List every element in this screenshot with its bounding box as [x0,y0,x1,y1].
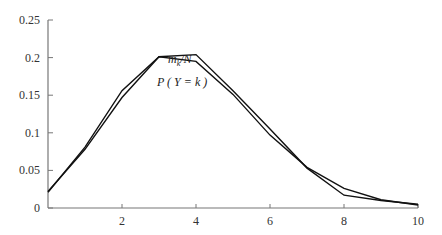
y-tick-label: 0 [34,201,40,215]
series-p-y-equals-k [48,57,418,205]
series-mk-over-n [48,55,418,205]
y-tick-label: 0.25 [19,13,40,27]
x-tick-label: 2 [119,214,125,228]
x-tick-label: 6 [267,214,273,228]
chart: 00.050.10.150.20.25246810 mk/N P ( Y = k… [0,0,442,235]
y-tick-label: 0.15 [19,88,40,102]
annotation-mk-over-n: mk/N [168,52,193,68]
y-tick-label: 0.05 [19,163,40,177]
x-tick-label: 4 [193,214,199,228]
x-tick-label: 8 [341,214,347,228]
y-tick-label: 0.1 [25,126,40,140]
y-tick-label: 0.2 [25,51,40,65]
axes: 00.050.10.150.20.25246810 [19,13,424,228]
x-tick-label: 10 [412,214,424,228]
series-lines [48,55,418,205]
annotation-p-y-equals-k: P ( Y = k ) [156,75,207,89]
